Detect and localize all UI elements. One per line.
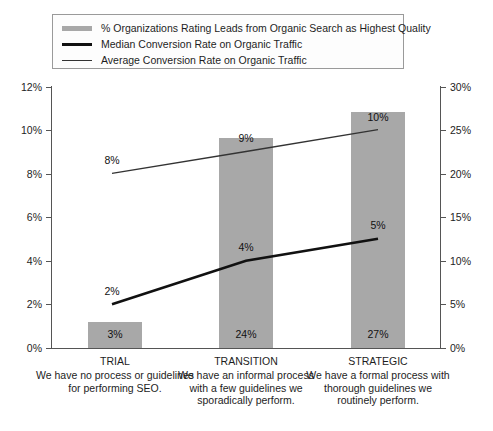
y-axis-left-tick-label: 8% [2,169,42,179]
y-axis-right-tick [441,304,446,305]
y-axis-left-tick-label: 0% [2,343,42,353]
legend-item-label: Median Conversion Rate on Organic Traffi… [101,38,302,50]
y-axis-left-tick [46,348,51,349]
median-label-trial: 2% [95,286,129,297]
y-axis-right-tick-label: 0% [450,343,490,353]
legend-item-median: Median Conversion Rate on Organic Traffi… [62,36,403,52]
y-axis-left-tick [46,87,51,88]
median-label-strategic: 5% [361,220,395,231]
y-axis-left-tick [46,217,51,218]
y-axis-left-tick-label: 10% [2,125,42,135]
category-description-strategic: We have a formal process with thorough g… [303,369,453,407]
y-axis-right-tick [441,217,446,218]
category-name-strategic: STRATEGIC [303,355,453,367]
chart-legend: % Organizations Rating Leads from Organi… [52,14,404,69]
x-axis [51,348,441,349]
category-description-transition: We have an informal process with a few g… [171,369,321,407]
y-axis-right-tick-label: 15% [450,212,490,222]
y-axis-right-tick-label: 30% [450,82,490,92]
y-axis-left-tick [46,261,51,262]
bar-label-transition: 24% [219,329,273,340]
chart-container: % Organizations Rating Leads from Organi… [0,0,493,431]
legend-line-icon [62,43,92,46]
y-axis-left [51,86,52,349]
y-axis-left-tick-label: 6% [2,212,42,222]
category-name-trial: TRIAL [40,355,190,367]
y-axis-right-tick [441,174,446,175]
y-axis-right-tick [441,130,446,131]
y-axis-left-tick-label: 4% [2,256,42,266]
legend-item-organizations: % Organizations Rating Leads from Organi… [62,20,403,36]
legend-item-label: Average Conversion Rate on Organic Traff… [101,54,307,66]
y-axis-left-tick [46,304,51,305]
y-axis-right-tick-label: 5% [450,299,490,309]
legend-item-label: % Organizations Rating Leads from Organi… [101,22,431,34]
bar-label-strategic: 27% [351,329,405,340]
y-axis-right-tick [441,348,446,349]
y-axis-right-tick [441,87,446,88]
average-label-strategic: 10% [361,112,395,123]
bar-label-trial: 3% [88,329,142,340]
y-axis-left-tick [46,130,51,131]
median-label-transition: 4% [229,242,263,253]
legend-line-icon [62,60,92,61]
average-label-trial: 8% [95,155,129,166]
y-axis-right-tick-label: 25% [450,125,490,135]
legend-line-icon [62,26,92,31]
y-axis-right-tick [441,261,446,262]
y-axis-right-tick-label: 10% [450,256,490,266]
y-axis-left-tick-label: 2% [2,299,42,309]
category-name-transition: TRANSITION [171,355,321,367]
average-label-transition: 9% [229,133,263,144]
y-axis-left-tick [46,174,51,175]
y-axis-left-tick-label: 12% [2,82,42,92]
y-axis-right-tick-label: 20% [450,169,490,179]
legend-item-average: Average Conversion Rate on Organic Traff… [62,52,403,68]
